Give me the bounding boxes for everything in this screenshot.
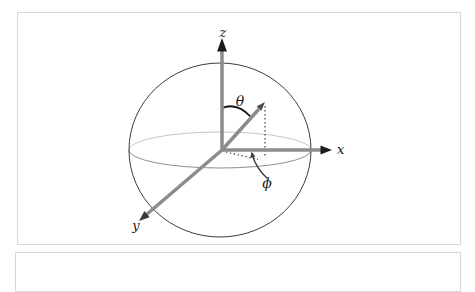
z-axis-label: z bbox=[219, 25, 227, 40]
theta-angle-label: θ bbox=[236, 93, 245, 109]
phi-arc-arrowhead-icon bbox=[250, 152, 255, 159]
phi-angle-label: ϕ bbox=[262, 175, 272, 191]
y-axis-line bbox=[146, 150, 222, 215]
x-axis-label: x bbox=[337, 142, 345, 157]
equator-ellipse-back bbox=[129, 132, 311, 150]
z-axis-arrowhead-icon bbox=[217, 38, 227, 52]
x-axis-arrowhead-icon bbox=[321, 146, 333, 155]
radius-vector-line bbox=[222, 109, 259, 150]
y-axis-label: y bbox=[131, 218, 140, 233]
